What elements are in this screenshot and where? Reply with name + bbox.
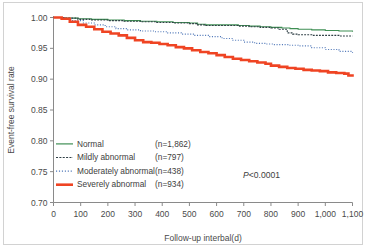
- legend-count-severely-abnormal: (n=934): [155, 179, 184, 189]
- y-axis-tick-label: 0.90: [31, 74, 48, 84]
- x-axis-tick-label: 1,000: [315, 209, 337, 219]
- x-axis-tick-label: 700: [237, 209, 251, 219]
- y-axis-tick-label: 1.00: [31, 13, 48, 23]
- x-axis-title: Follow-up interbal(d): [164, 233, 242, 243]
- y-axis-title: Event-free survival rate: [6, 66, 16, 154]
- y-axis-tick-label: 0.75: [31, 167, 48, 177]
- legend-label-normal[interactable]: Normal: [77, 139, 104, 149]
- y-axis-tick-label: 0.70: [31, 198, 48, 208]
- y-axis-tick-label: 0.85: [31, 105, 48, 115]
- legend-count-mildly-abnormal: (n=797): [155, 152, 184, 162]
- x-axis-tick-label: 1,100: [342, 209, 364, 219]
- y-axis-tick-label: 0.80: [31, 136, 48, 146]
- x-axis-tick-label: 500: [182, 209, 196, 219]
- legend-count-normal: (n=1,862): [155, 139, 191, 149]
- legend-label-severely-abnormal[interactable]: Severely abnormal: [77, 179, 146, 189]
- p-value-annotation: P<0.0001: [243, 170, 280, 180]
- x-axis-tick-label: 0: [51, 209, 56, 219]
- x-axis-tick-label: 900: [291, 209, 305, 219]
- series-line-severely-abnormal: [54, 18, 353, 77]
- x-axis-tick-label: 100: [74, 209, 88, 219]
- x-axis-tick-label: 200: [101, 209, 115, 219]
- x-axis-tick-label: 400: [155, 209, 169, 219]
- survival-curve-chart: 0.700.750.800.850.900.951.00010020030040…: [0, 0, 368, 250]
- x-axis-tick-label: 800: [264, 209, 278, 219]
- legend-label-mildly-abnormal[interactable]: Mildly abnormal: [77, 152, 135, 162]
- legend-count-moderately-abnormal: (n=438): [155, 166, 184, 176]
- x-axis-tick-label: 600: [209, 209, 223, 219]
- series-line-mildly-abnormal: [54, 18, 353, 37]
- y-axis-tick-label: 0.95: [31, 43, 48, 53]
- legend-label-moderately-abnormal[interactable]: Moderately abnormal: [77, 166, 155, 176]
- x-axis-tick-label: 300: [128, 209, 142, 219]
